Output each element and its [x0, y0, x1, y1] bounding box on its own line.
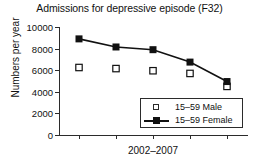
y-tick-label: 10000 [27, 22, 53, 33]
legend-item-male: 15–59 Male [141, 100, 242, 114]
chart-title: Admissions for depressive episode (F32) [0, 2, 259, 14]
legend-label-male: 15–59 Male [175, 102, 222, 112]
chart-legend: 15–59 Male 15–59 Female [140, 98, 243, 128]
open-square-icon [141, 100, 175, 114]
data-point [224, 78, 231, 85]
y-axis-title: Numbers per year [10, 2, 21, 114]
y-tick-label: 6000 [32, 65, 53, 76]
legend-item-female: 15–59 Female [141, 113, 242, 127]
data-point [187, 59, 194, 66]
y-tick-label: 0 [48, 130, 53, 141]
y-tick-label: 2000 [32, 108, 53, 119]
data-point [150, 68, 156, 74]
y-tick-label: 8000 [32, 43, 53, 54]
x-axis-title: 2002–2007 [58, 145, 248, 156]
data-point [76, 64, 82, 70]
legend-label-female: 15–59 Female [175, 115, 233, 125]
y-tick-label: 4000 [32, 86, 53, 97]
data-point [113, 43, 120, 50]
data-point [187, 70, 193, 76]
data-point [113, 65, 119, 71]
chart-figure: Admissions for depressive episode (F32) … [0, 0, 259, 164]
data-point [76, 35, 83, 42]
data-point [150, 46, 157, 53]
filled-square-line-icon [141, 113, 175, 127]
series-line-1 [79, 39, 227, 82]
